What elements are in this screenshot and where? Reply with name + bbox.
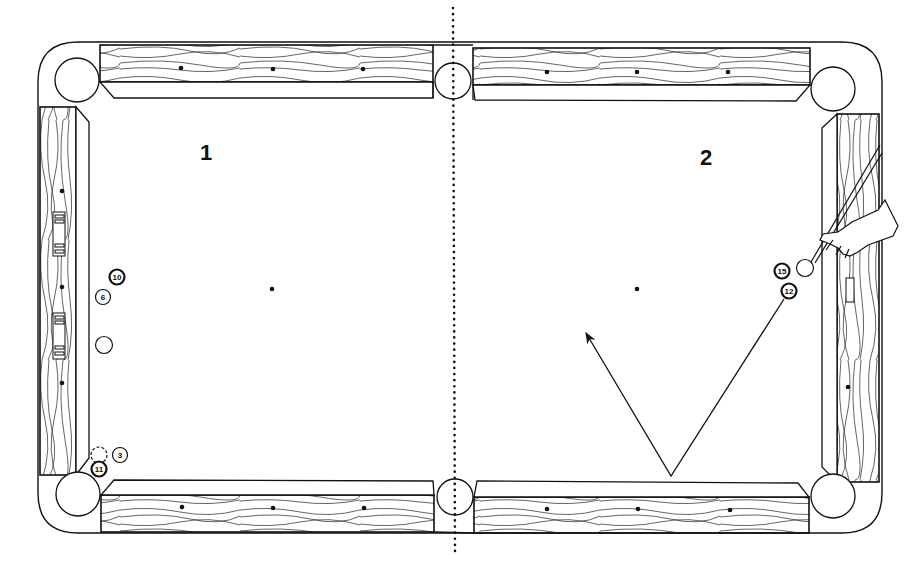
- bottom-rail-right: [474, 497, 809, 533]
- pocket-top-left: [55, 58, 99, 102]
- pocket-bottom-right: [811, 474, 855, 518]
- svg-text:15: 15: [778, 267, 787, 276]
- ball-12: 12: [782, 284, 797, 299]
- head-spot: [270, 287, 275, 292]
- ball-11: 11: [92, 462, 107, 477]
- top-rail-right: [473, 48, 810, 85]
- ball-6: 6: [96, 290, 111, 305]
- cue-ball-zone2: [797, 260, 814, 277]
- top-rail-left: [100, 45, 433, 82]
- pocket-bottom-left: [56, 472, 100, 516]
- svg-text:12: 12: [785, 287, 794, 296]
- table-frame: [38, 42, 882, 533]
- foot-spot: [635, 287, 640, 292]
- svg-text:10: 10: [113, 273, 122, 282]
- svg-text:3: 3: [118, 451, 123, 460]
- svg-text:11: 11: [95, 465, 104, 474]
- pool-table-diagram: 10 6 3 11 15 12: [0, 0, 922, 577]
- ball-15: 15: [775, 264, 790, 279]
- zone-label-2: 2: [700, 147, 712, 169]
- right-rail-sight: [846, 278, 854, 302]
- ball-10: 10: [110, 270, 125, 285]
- zone-label-1: 1: [200, 142, 212, 164]
- pocket-top-right: [811, 67, 855, 111]
- svg-text:6: 6: [101, 293, 106, 302]
- cue-ball-zone1: [96, 337, 113, 354]
- ball-3: 3: [113, 448, 128, 463]
- bottom-rail-left: [101, 495, 434, 532]
- left-rail: [40, 107, 76, 475]
